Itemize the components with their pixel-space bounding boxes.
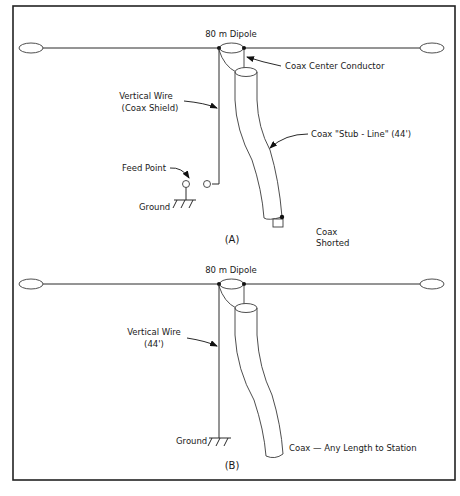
- ground-symbol-icon: [208, 438, 231, 446]
- vertical-wire-label-2: (Coax Shield): [122, 103, 179, 113]
- antenna-diagram: 80 m Dipole Vertical Wire (Coax Shield) …: [0, 0, 460, 496]
- vertical-wire: [212, 48, 219, 184]
- short-dot: [280, 215, 284, 219]
- ground-label: Ground: [139, 202, 170, 212]
- center-insulator-icon: [220, 43, 244, 53]
- vertical-wire-label-1: Vertical Wire: [119, 91, 173, 101]
- coax-left-edge: [235, 308, 266, 456]
- ground-terminal-icon: [183, 181, 190, 188]
- junction-dot-right: [242, 46, 246, 50]
- stub-line-arrow: [270, 134, 308, 148]
- dipole-label: 80 m Dipole: [205, 29, 257, 39]
- center-conductor-label: Coax Center Conductor: [285, 61, 385, 71]
- end-insulator-right-icon: [420, 279, 444, 289]
- coax-left-edge: [235, 72, 264, 218]
- panel-b: 80 m Dipole Vertical Wire (44') Ground C…: [19, 265, 444, 471]
- vertical-wire-arrow: [187, 338, 217, 346]
- feed-terminal-icon: [204, 181, 211, 188]
- junction-dot-right: [242, 282, 246, 286]
- vertical-wire-label-2: (44'): [144, 339, 164, 349]
- feed-point-arrow: [170, 168, 189, 178]
- center-insulator-icon: [220, 279, 244, 289]
- panel-a-caption: (A): [225, 234, 240, 245]
- short-block-icon: [273, 219, 283, 227]
- ground-label: Ground: [176, 436, 207, 446]
- feed-point-label: Feed Point: [122, 163, 167, 173]
- coax-right-edge: [257, 308, 283, 454]
- coax-top-icon: [235, 304, 257, 313]
- coax-to-station-label: Coax — Any Length to Station: [289, 443, 417, 453]
- center-conductor-arrow: [247, 57, 281, 66]
- panel-a: 80 m Dipole Vertical Wire (Coax Shield) …: [19, 29, 444, 248]
- end-insulator-right-icon: [420, 43, 444, 53]
- coax-shorted-label-2: Shorted: [316, 238, 349, 248]
- panel-b-caption: (B): [225, 460, 240, 471]
- coax-bottom: [266, 454, 283, 458]
- stub-line-label: Coax "Stub - Line" (44'): [311, 129, 411, 139]
- coax-top-icon: [235, 68, 257, 77]
- dipole-label: 80 m Dipole: [205, 265, 257, 275]
- vertical-wire-label-1: Vertical Wire: [127, 327, 181, 337]
- ground-symbol-icon: [173, 200, 196, 208]
- vertical-wire-arrow: [184, 101, 217, 108]
- coax-shorted-label-1: Coax: [316, 227, 337, 237]
- end-insulator-left-icon: [19, 43, 43, 53]
- end-insulator-left-icon: [19, 279, 43, 289]
